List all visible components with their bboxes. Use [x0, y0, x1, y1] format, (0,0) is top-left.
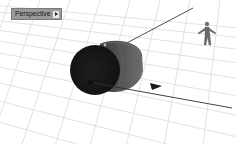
viewport-title: Perspective: [15, 9, 50, 19]
cylinder-object: [70, 41, 143, 95]
viewport-title-button[interactable]: Perspective: [11, 8, 62, 20]
scene-canvas[interactable]: [0, 0, 236, 144]
perspective-viewport[interactable]: Perspective: [0, 0, 236, 144]
arrowhead-icon: [150, 83, 162, 90]
viewport-menu-arrow-icon[interactable]: [53, 11, 59, 18]
